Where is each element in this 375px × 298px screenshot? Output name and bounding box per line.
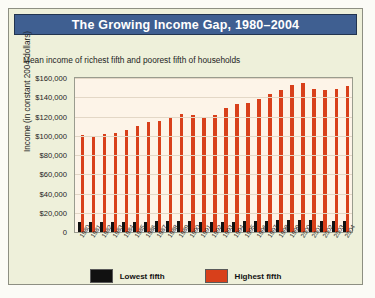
bar-highest-fifth[interactable] — [312, 89, 315, 232]
gridline — [75, 97, 352, 98]
y-axis-tick: $120,000 — [35, 112, 67, 121]
legend-label: Highest fifth — [235, 272, 282, 281]
bar-highest-fifth[interactable] — [346, 86, 349, 232]
gridline — [75, 78, 352, 79]
legend-item[interactable]: Highest fifth — [205, 269, 282, 283]
bar-highest-fifth[interactable] — [323, 90, 326, 232]
bar-highest-fifth[interactable] — [103, 134, 106, 232]
legend-label: Lowest fifth — [120, 272, 165, 281]
chart-title-bar: The Growing Income Gap, 1980–2004 — [14, 14, 357, 35]
bar-highest-fifth[interactable] — [158, 121, 161, 232]
x-axis-labels: 1980198119821983198419851986198719881989… — [74, 235, 353, 265]
legend-swatch — [205, 269, 228, 283]
gridline — [75, 136, 352, 137]
plot-area — [74, 77, 353, 233]
gridline — [75, 194, 352, 195]
y-axis-tick: 0 — [63, 228, 67, 237]
y-axis-tick: $20,000 — [40, 208, 67, 217]
chart-panel: The Growing Income Gap, 1980–2004 Mean i… — [8, 8, 363, 285]
bar-highest-fifth[interactable] — [136, 126, 139, 232]
bar-highest-fifth[interactable] — [114, 133, 117, 232]
y-axis-tick: $160,000 — [35, 74, 67, 83]
page-title: The Growing Income Gap, 1980–2004 — [72, 18, 300, 32]
gridline — [75, 213, 352, 214]
bar-highest-fifth[interactable] — [301, 83, 304, 232]
legend-swatch — [90, 269, 113, 283]
y-axis-labels: $160,000$140,000$120,000$100,000$80,000$… — [9, 77, 71, 233]
chart-subtitle: Mean income of richest fifth and poorest… — [23, 55, 240, 65]
bar-highest-fifth[interactable] — [92, 136, 95, 232]
gridline — [75, 117, 352, 118]
y-axis-tick: $140,000 — [35, 93, 67, 102]
y-axis-tick: $60,000 — [40, 170, 67, 179]
y-axis-tick: $40,000 — [40, 189, 67, 198]
bar-highest-fifth[interactable] — [268, 94, 271, 232]
chart-legend: Lowest fifthHighest fifth — [9, 269, 362, 283]
y-axis-tick: $80,000 — [40, 151, 67, 160]
bar-highest-fifth[interactable] — [180, 114, 183, 232]
bar-highest-fifth[interactable] — [279, 90, 282, 232]
bar-highest-fifth[interactable] — [81, 135, 84, 232]
legend-item[interactable]: Lowest fifth — [90, 269, 165, 283]
bar-highest-fifth[interactable] — [125, 130, 128, 233]
gridline — [75, 155, 352, 156]
bar-highest-fifth[interactable] — [290, 85, 293, 232]
y-axis-tick: $100,000 — [35, 131, 67, 140]
bar-highest-fifth[interactable] — [335, 89, 338, 232]
y-axis-title: Income (in constant 2004 dollars) — [23, 22, 32, 162]
gridline — [75, 174, 352, 175]
bar-highest-fifth[interactable] — [147, 122, 150, 232]
